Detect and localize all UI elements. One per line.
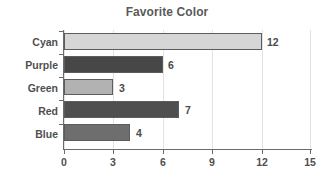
y-tick-4 bbox=[59, 124, 64, 125]
value-label-purple: 6 bbox=[168, 59, 174, 71]
y-axis-label-purple: Purple bbox=[0, 59, 58, 71]
y-tick-3 bbox=[59, 100, 64, 101]
bar-purple bbox=[64, 56, 163, 73]
value-label-green: 3 bbox=[119, 82, 125, 94]
y-axis-label-blue: Blue bbox=[0, 128, 58, 140]
bar-cyan bbox=[64, 33, 262, 50]
gridline-15 bbox=[310, 30, 311, 149]
bar-red bbox=[64, 101, 179, 118]
y-axis-line bbox=[63, 30, 64, 150]
value-label-red: 7 bbox=[185, 104, 191, 116]
y-tick-2 bbox=[59, 77, 64, 78]
x-axis-line bbox=[63, 149, 312, 150]
x-axis-label-9: 9 bbox=[202, 156, 222, 168]
bar-green bbox=[64, 79, 113, 95]
y-axis-label-green: Green bbox=[0, 82, 58, 94]
x-axis-label-12: 12 bbox=[252, 156, 272, 168]
bar-chart: Favorite Color Cyan Purple Green Red Blu… bbox=[0, 0, 334, 177]
y-tick-0 bbox=[59, 31, 64, 32]
chart-title: Favorite Color bbox=[0, 5, 334, 19]
x-axis-label-0: 0 bbox=[54, 156, 74, 168]
x-axis-label-6: 6 bbox=[153, 156, 173, 168]
x-tick-0 bbox=[64, 150, 65, 154]
x-axis-label-15: 15 bbox=[300, 156, 320, 168]
bar-blue bbox=[64, 124, 130, 141]
x-tick-15 bbox=[310, 150, 311, 154]
x-tick-6 bbox=[163, 150, 164, 154]
y-tick-1 bbox=[59, 54, 64, 55]
x-tick-12 bbox=[262, 150, 263, 154]
gridline-12 bbox=[262, 30, 263, 149]
y-axis-label-red: Red bbox=[0, 105, 58, 117]
x-axis-label-3: 3 bbox=[103, 156, 123, 168]
x-tick-9 bbox=[212, 150, 213, 154]
value-label-cyan: 12 bbox=[267, 36, 279, 48]
y-axis-label-cyan: Cyan bbox=[0, 36, 58, 48]
value-label-blue: 4 bbox=[136, 127, 142, 139]
x-tick-3 bbox=[113, 150, 114, 154]
